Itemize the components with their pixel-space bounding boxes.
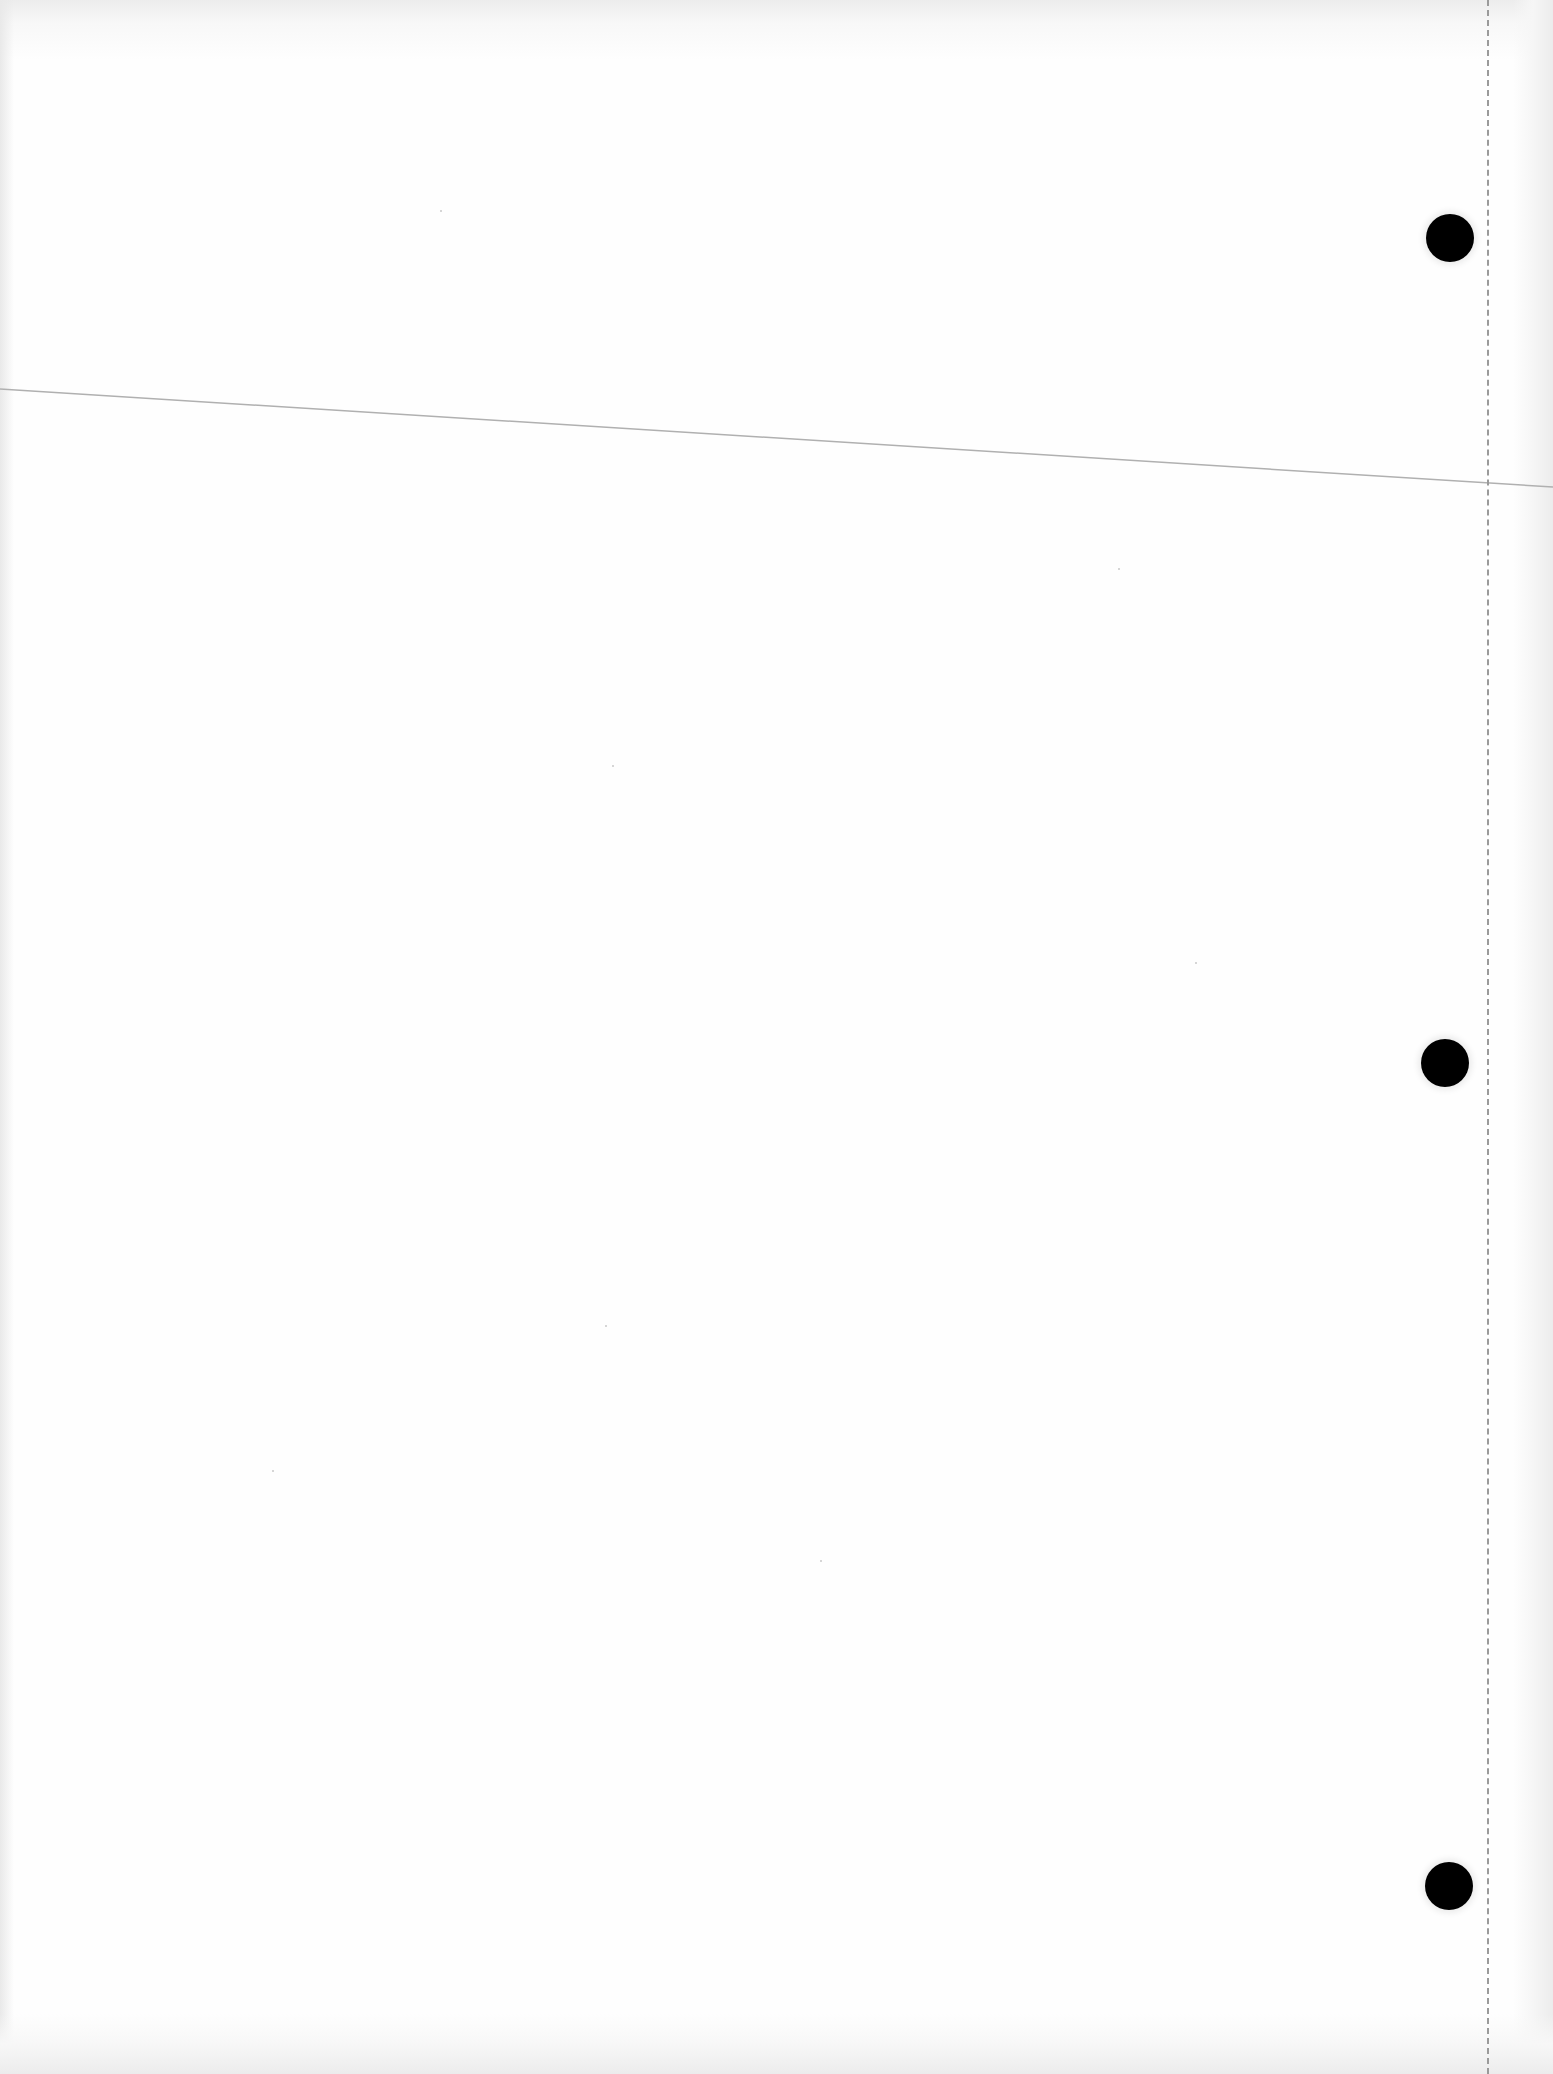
- scan-shading-bottom: [0, 2014, 1553, 2074]
- punch-hole-bottom: [1425, 1862, 1473, 1910]
- crease-line: [0, 0, 1553, 500]
- dust-speck: [1118, 568, 1120, 570]
- scanned-page: [0, 0, 1553, 2074]
- dust-speck: [605, 1325, 607, 1327]
- dust-speck: [612, 765, 614, 767]
- dust-speck: [820, 1560, 822, 1562]
- dust-speck: [272, 1470, 274, 1472]
- punch-hole-middle: [1421, 1039, 1469, 1087]
- dust-speck: [1195, 962, 1197, 964]
- perforation-line: [1487, 0, 1489, 2074]
- punch-hole-top: [1426, 214, 1474, 262]
- dust-speck: [440, 210, 442, 212]
